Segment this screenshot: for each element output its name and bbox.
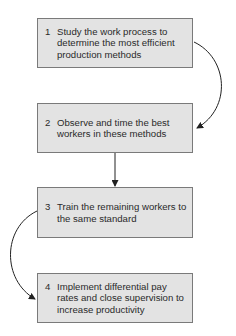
step-text: Implement differential pay rates and clo… <box>57 281 188 316</box>
step-number: 1 <box>45 26 57 61</box>
step-2: 2 Observe and time the best workers in t… <box>38 117 192 140</box>
step-3: 3 Train the remaining workers to the sam… <box>38 201 192 224</box>
step-text: Study the work process to determine the … <box>57 26 188 61</box>
step-box-1: 1 Study the work process to determine th… <box>37 18 193 68</box>
step-number: 4 <box>45 281 57 316</box>
step-text: Train the remaining workers to the same … <box>57 201 188 224</box>
step-number: 3 <box>45 201 57 224</box>
step-number: 2 <box>45 117 57 140</box>
step-4: 4 Implement differential pay rates and c… <box>38 281 192 316</box>
arrow-step3-to-step4 <box>10 211 37 299</box>
step-1: 1 Study the work process to determine th… <box>38 26 192 61</box>
step-text: Observe and time the best workers in the… <box>57 117 188 140</box>
arrow-step1-to-step2 <box>194 42 221 128</box>
step-box-4: 4 Implement differential pay rates and c… <box>37 273 193 323</box>
step-box-3: 3 Train the remaining workers to the sam… <box>37 187 193 238</box>
step-box-2: 2 Observe and time the best workers in t… <box>37 103 193 153</box>
